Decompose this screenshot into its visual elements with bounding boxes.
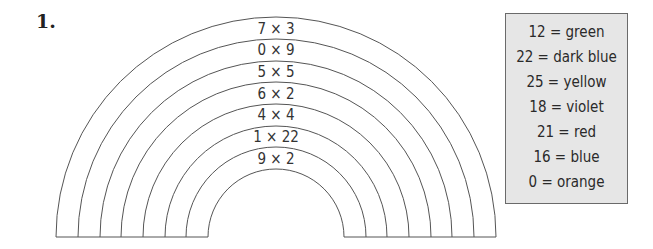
key-entry-dark-blue: 22 = dark blue — [506, 45, 627, 70]
rainbow-band-5[interactable]: 4 × 4 — [216, 106, 336, 124]
rainbow-band-1[interactable]: 7 × 3 — [216, 20, 336, 38]
key-entry-yellow: 25 = yellow — [506, 70, 627, 95]
rainbow-band-7[interactable]: 9 × 2 — [216, 150, 336, 168]
color-key-box: 12 = green 22 = dark blue 25 = yellow 18… — [505, 13, 628, 204]
arc-8 — [208, 169, 344, 237]
key-entry-orange: 0 = orange — [506, 170, 627, 195]
key-entry-violet: 18 = violet — [506, 95, 627, 120]
key-entry-green: 12 = green — [506, 20, 627, 45]
rainbow-band-6[interactable]: 1 × 22 — [216, 128, 336, 146]
rainbow-band-4[interactable]: 6 × 2 — [216, 85, 336, 103]
rainbow-band-2[interactable]: 0 × 9 — [216, 41, 336, 59]
key-entry-blue: 16 = blue — [506, 145, 627, 170]
rainbow-band-3[interactable]: 5 × 5 — [216, 63, 336, 81]
key-entry-red: 21 = red — [506, 120, 627, 145]
